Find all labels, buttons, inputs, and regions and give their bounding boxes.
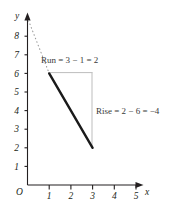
y-tick-label-4: 4 bbox=[11, 107, 22, 117]
x-axis-arrowhead-icon bbox=[136, 182, 144, 188]
y-tick-label-5: 5 bbox=[11, 88, 22, 98]
y-tick-label-3: 3 bbox=[11, 125, 22, 135]
x-tick-label-5: 5 bbox=[131, 192, 142, 202]
x-axis-ticks bbox=[49, 185, 136, 190]
y-tick-label-2: 2 bbox=[11, 144, 22, 154]
slope-diagram-figure: y x O 1 2 3 4 5 6 7 8 1 2 3 4 5 Run = 3 … bbox=[0, 0, 173, 211]
origin-label: O bbox=[16, 188, 23, 198]
x-tick-label-3: 3 bbox=[87, 192, 98, 202]
y-tick-label-7: 7 bbox=[11, 51, 22, 61]
y-axis-arrowhead-icon bbox=[24, 13, 30, 21]
y-tick-label-1: 1 bbox=[11, 163, 22, 173]
x-axis-label: x bbox=[145, 188, 149, 198]
dotted-extension-line bbox=[29, 21, 50, 74]
x-tick-label-1: 1 bbox=[44, 192, 55, 202]
x-tick-label-2: 2 bbox=[65, 192, 76, 202]
y-tick-label-6: 6 bbox=[11, 70, 22, 80]
y-tick-label-8: 8 bbox=[11, 32, 22, 42]
rise-annotation-label: Rise = 2 − 6 = −4 bbox=[96, 107, 159, 116]
y-axis-label: y bbox=[15, 12, 19, 22]
run-annotation-label: Run = 3 − 1 = 2 bbox=[41, 56, 98, 65]
x-tick-label-4: 4 bbox=[109, 192, 120, 202]
slope-line-segment bbox=[49, 73, 92, 147]
